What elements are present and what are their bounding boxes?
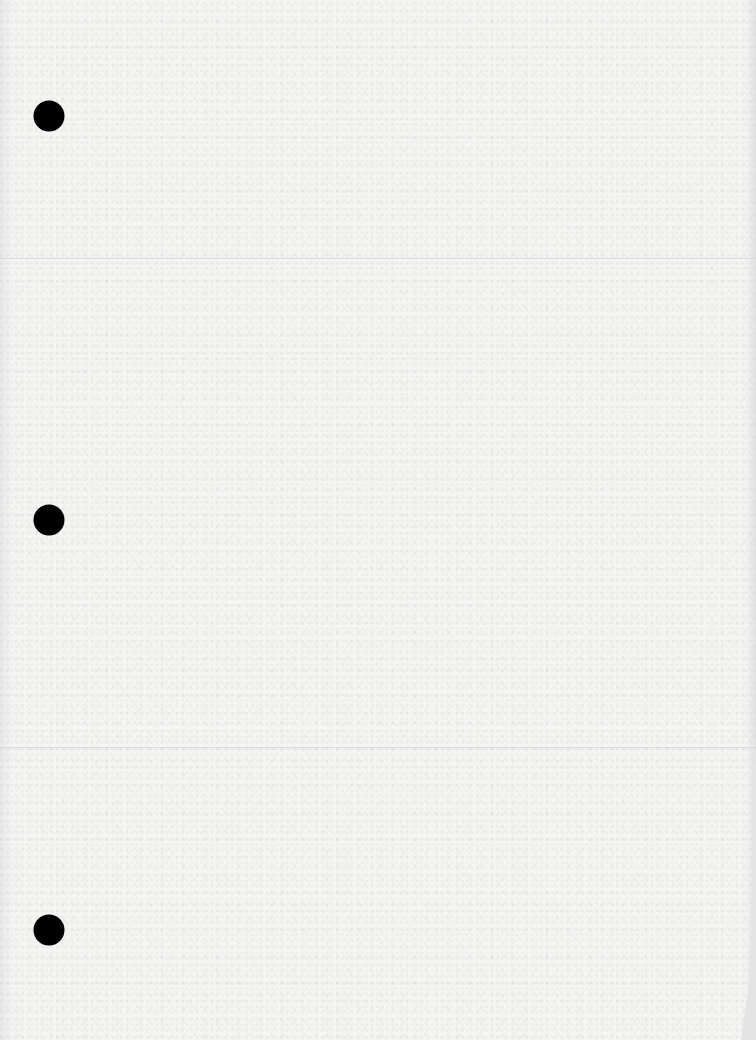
- paper-sheet: [0, 0, 756, 1040]
- punch-hole-top: [34, 101, 65, 132]
- punch-hole-bottom: [34, 915, 65, 946]
- fold-crease-upper: [0, 258, 756, 259]
- fold-crease-lower: [0, 747, 756, 748]
- punch-hole-middle: [34, 505, 65, 536]
